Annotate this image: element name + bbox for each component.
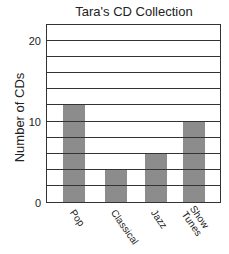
x-tick-classical: Classical [109,208,140,247]
gridline [47,88,220,89]
gridline [47,72,220,73]
bar-classical [105,170,127,202]
gridline [47,40,220,41]
gridline [47,137,220,138]
gridline [47,104,220,105]
plot-area [46,24,221,203]
y-axis-label: Number of CDs [12,73,27,163]
gridline [47,153,220,154]
x-tick-show-tunes: Show Tunes [180,204,212,238]
gridline [47,185,220,186]
y-tick-20: 20 [29,35,41,47]
gridline [47,121,220,122]
gridline [47,56,220,57]
y-tick-10: 10 [29,116,41,128]
bar-jazz [145,154,167,202]
bar-show-tunes [183,122,205,202]
y-tick-0: 0 [35,197,41,209]
chart-title: Tara's CD Collection [46,4,222,19]
gridline [47,169,220,170]
x-tick-jazz: Jazz [149,208,169,231]
x-tick-pop: Pop [68,208,86,228]
